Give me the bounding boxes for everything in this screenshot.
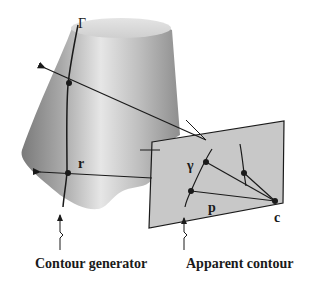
point-c	[272, 198, 278, 204]
label-p: p	[208, 200, 216, 215]
point-gamma	[203, 159, 209, 165]
point-second	[241, 170, 247, 176]
label-gamma: γ	[186, 158, 194, 173]
label-c: c	[274, 210, 280, 225]
diagram-canvas: Γ r γ p c Contour generator Apparent con…	[0, 0, 320, 287]
point-p	[188, 188, 194, 194]
point-on-generator	[66, 80, 72, 86]
caption-contour-generator: Contour generator	[35, 256, 147, 271]
label-Gamma: Γ	[78, 16, 86, 31]
label-r: r	[78, 156, 84, 171]
apparent-contour-pointer	[184, 218, 187, 250]
caption-apparent-contour: Apparent contour	[186, 256, 293, 271]
contour-generator-pointer	[60, 215, 63, 250]
point-r	[65, 170, 71, 176]
